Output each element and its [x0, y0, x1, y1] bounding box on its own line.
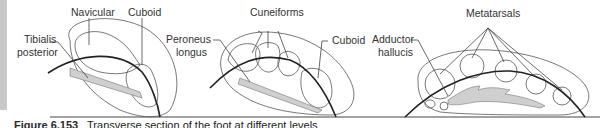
panel-2-cuneiform-level: Cuneiforms Cuboid Peroneus longus [166, 6, 365, 117]
cuneiforms-leader-1 [252, 31, 262, 53]
caption-number: Figure 6.153 [14, 119, 78, 128]
peroneus-leader [213, 40, 250, 82]
metatarsals-leader-1 [472, 28, 488, 58]
label-tibialis-2: posterior [17, 46, 58, 58]
label-peroneus-2: longus [176, 46, 207, 58]
adductor-leader [411, 40, 448, 96]
cuboid-leader [318, 41, 328, 78]
label-peroneus-1: Peroneus [166, 33, 211, 45]
label-navicular: Navicular [71, 6, 115, 18]
metatarsals-leader-2 [440, 28, 488, 74]
label-adductor-1: Adductor [372, 33, 415, 45]
peroneus-longus-tendon [238, 78, 322, 113]
metatarsals-leader-3 [488, 28, 504, 62]
caption-text: Transverse section of the foot at differ… [87, 119, 318, 128]
cuneiforms-leader-3 [278, 31, 288, 58]
label-adductor-2: hallucis [378, 46, 413, 58]
figure-caption: Figure 6.153 Transverse section of the f… [14, 119, 318, 128]
label-cuneiforms: Cuneiforms [250, 6, 304, 18]
metatarsals-leader-5 [488, 28, 562, 90]
sesamoid-2 [440, 102, 448, 110]
label-metatarsals: Metatarsals [466, 7, 520, 19]
sesamoid-1 [425, 100, 435, 108]
label-cuboid: Cuboid [332, 34, 365, 46]
tibialis-posterior-tendon [70, 68, 142, 98]
foot-cross-section-diagram: Navicular Cuboid Tibialis posterior Cune… [0, 0, 601, 128]
panel-1-navicular-level: Navicular Cuboid Tibialis posterior [17, 6, 177, 117]
label-tibialis-1: Tibialis [24, 33, 56, 45]
label-cuboid: Cuboid [128, 6, 161, 18]
adductor-hallucis-muscle [448, 86, 545, 108]
cuboid-bone [301, 68, 332, 108]
panel-3-metatarsal-level: Metatarsals Adductor hallucis [372, 7, 589, 117]
